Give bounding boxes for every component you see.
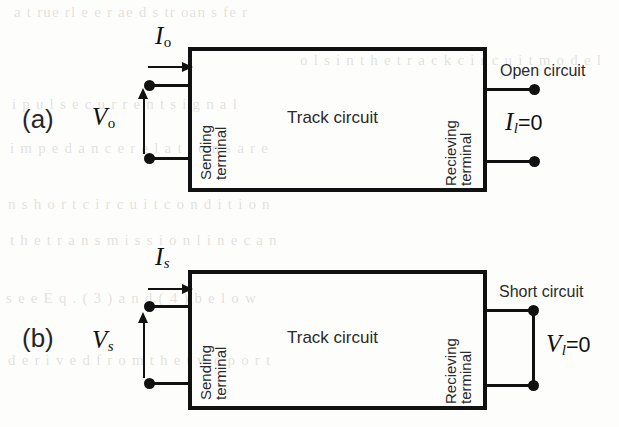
open-circuit-label: Open circuit [500,62,585,80]
track-circuit-label-b: Track circuit [287,328,378,348]
receiving-terminal-line2: terminal [458,338,473,404]
input-current-arrow-b [148,288,192,290]
sending-lead-top-b [150,305,190,308]
load-current-base-a: I [505,108,513,135]
receiving-terminal-label-a: Recieving terminal [443,120,474,186]
input-current-base-b: I [155,243,163,270]
receiving-terminal-label-b: Recieving terminal [443,338,474,404]
sending-terminal-line2: terminal [213,125,228,180]
receiving-lead-bottom-a [485,160,535,163]
page-bleed-text: t h e t r a n s m i s s i o n l i n e c … [10,232,278,249]
input-voltage-base-b: V [92,326,107,353]
receiving-terminal-line2: terminal [458,120,473,186]
load-voltage-symbol-b: Vl=0 [546,330,590,358]
shorting-bar-b [532,309,535,387]
sending-terminal-dot-bottom-b [144,378,155,389]
page-bleed-text: n s h o r t c i r c u i t c o n d i t i … [8,196,271,213]
short-terminal-dot-top-b [528,305,539,316]
input-current-base-a: I [155,22,163,49]
load-voltage-base-b: V [546,330,561,357]
input-voltage-base-a: V [92,103,107,130]
sending-lead-bottom-b [150,382,190,385]
sending-terminal-dot-top-b [144,301,155,312]
sending-terminal-dot-bottom-a [144,153,155,164]
receiving-lead-top-a [485,88,535,91]
input-voltage-sub-a: o [108,115,116,131]
sending-terminal-label-b: Sending terminal [198,345,229,400]
panel-b-letter: (b) [22,323,54,354]
open-terminal-dot-top-a [529,84,540,95]
open-terminal-dot-bottom-a [529,156,540,167]
load-current-symbol-a: Il=0 [505,108,543,136]
panel-a-letter: (a) [22,104,54,135]
track-circuit-label-a: Track circuit [287,108,378,128]
sending-lead-top-a [150,84,190,87]
input-current-arrow-a [148,66,192,68]
short-circuit-label: Short circuit [499,283,583,301]
input-current-symbol-b: Is [155,243,170,271]
load-current-sub-a: l [514,120,518,136]
input-voltage-symbol-b: Vs [92,326,114,354]
input-current-sub-a: o [164,34,172,50]
input-voltage-sub-b: s [108,338,114,354]
sending-lead-bottom-a [150,157,190,160]
input-current-sub-b: s [164,255,170,271]
sending-terminal-label-a: Sending terminal [198,125,229,180]
load-current-equals-a: =0 [518,111,543,135]
page-bleed-text: a t rue rl e e r ae d s tr oan s fe r [14,4,248,21]
load-voltage-sub-b: l [562,342,566,358]
input-voltage-arrow-a [143,98,145,154]
figure-canvas: a t rue rl e e r ae d s tr oan s fe r o … [0,0,619,427]
input-voltage-arrow-b [143,322,145,378]
input-voltage-symbol-a: Vo [92,103,115,131]
sending-terminal-line2: terminal [213,345,228,400]
short-terminal-dot-bottom-b [528,380,539,391]
input-current-symbol-a: Io [155,22,171,50]
load-voltage-equals-b: =0 [566,333,591,357]
